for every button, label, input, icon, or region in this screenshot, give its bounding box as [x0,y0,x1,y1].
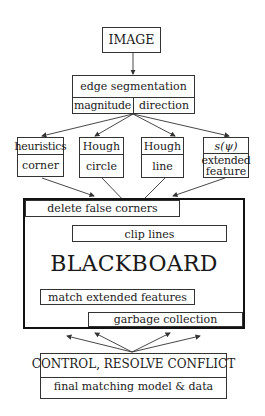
detector-top-label: Hough [142,141,183,152]
image-label: IMAGE [103,34,160,47]
process-clip-lines: clip lines [72,225,227,242]
detector-top-label: s(ψ) [204,141,248,152]
image-box: IMAGE [102,27,161,53]
direction-label: direction [134,100,194,111]
control-title: CONTROL, RESOLVE CONFLICT [28,358,239,370]
magnitude-label: magnitude [72,100,133,111]
process-label: match extended features [41,292,194,303]
detector-bottom-label: circle [80,161,123,172]
detector-bottom-label: corner [18,160,63,171]
detector-divider [80,154,123,155]
process-garbage-collection: garbage collection [88,312,243,327]
edge-segmentation-label: edge segmentation [73,81,194,92]
detector-bottom-label: line [142,161,183,172]
detector-divider [142,154,183,155]
control-divider [41,377,226,378]
detector-heuristics-corner: heuristics corner [17,137,64,177]
control-subtitle: final matching model & data [40,381,227,392]
detector-divider [18,154,63,155]
process-match-extended-features: match extended features [40,289,195,305]
detector-hough-circle: Hough circle [79,137,124,178]
detector-hough-line: Hough line [141,137,184,178]
process-delete-false-corners: delete false corners [25,200,180,217]
detector-bottom-label-line2: feature [201,166,251,177]
process-label: garbage collection [89,314,242,325]
process-label: clip lines [73,229,226,240]
blackboard-title: BLACKBOARD [23,253,245,275]
detector-extended-feature: s(ψ) extended feature [203,137,249,178]
detector-top-label: heuristics [14,141,67,152]
detector-top-label: Hough [80,141,123,152]
edge-segmentation-box: edge segmentation magnitude direction [72,75,195,114]
process-label: delete false corners [26,203,179,214]
